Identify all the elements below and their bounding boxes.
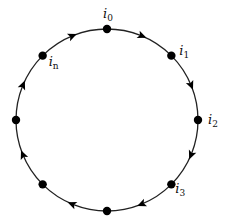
arrow-head-icon <box>185 150 196 161</box>
node-i0 <box>103 25 111 33</box>
cycle-nodes <box>12 25 202 215</box>
arrow-head-icon <box>186 80 197 91</box>
node-label-i3: i3 <box>175 181 185 198</box>
node-label-i1: i1 <box>179 43 189 60</box>
arrow-head-icon <box>66 198 77 209</box>
node-bl <box>38 180 46 188</box>
node-i2 <box>194 116 202 124</box>
node-label-in: in <box>49 54 59 71</box>
cycle-diagram: i0i1i2i3in <box>0 0 226 224</box>
node-b <box>103 207 111 215</box>
node-l <box>12 116 20 124</box>
arrow-head-icon <box>137 31 148 42</box>
arrow-head-icon <box>17 149 28 160</box>
arrow-head-icon <box>18 79 29 90</box>
node-i3 <box>167 180 175 188</box>
node-in <box>38 51 46 59</box>
node-label-i0: i0 <box>103 6 113 23</box>
arrow-head-icon <box>67 30 78 41</box>
node-i1 <box>167 51 175 59</box>
node-label-i2: i2 <box>208 112 218 129</box>
arrow-head-icon <box>136 199 147 210</box>
